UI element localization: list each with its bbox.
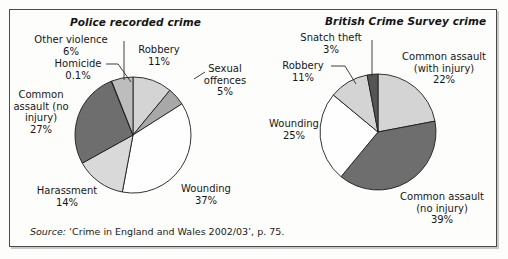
label-wounding-bcs: Wounding 25% [260,118,328,141]
label-snatch-theft: Snatch theft 3% [287,32,375,55]
source-note: Source: ‘Crime in England and Wales 2002… [30,226,284,237]
pie-chart-figure: Police recorded crime Other violence 6% … [0,0,508,259]
label-common-assault-no-injury-bcs: Common assault (no injury) 39% [388,191,496,226]
source-label: Source: [30,226,66,237]
label-common-assault-with-injury: Common assault (with injury) 22% [392,51,496,86]
source-citation: ‘Crime in England and Wales 2002/03’, p.… [69,226,284,237]
label-robbery-bcs: Robbery 11% [272,60,334,83]
